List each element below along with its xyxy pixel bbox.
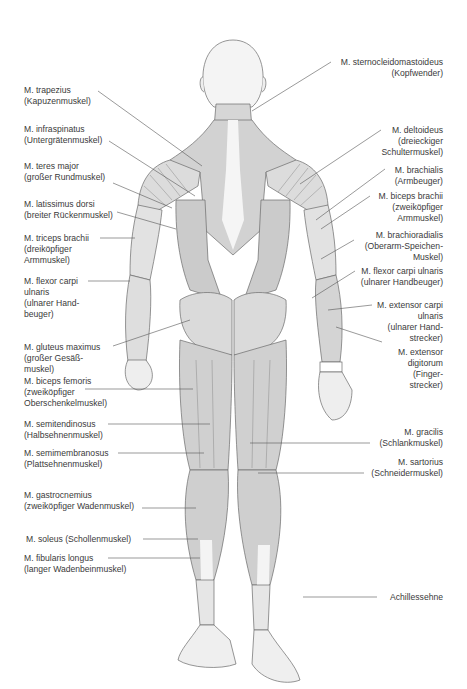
label-german: ulnaris [377,311,443,322]
label-extensor-digitorum: M. extensor digitorum (Finger- strecker) [398,347,443,391]
label-latin: M. semimembranosus [24,448,109,459]
hand-right [319,372,353,420]
label-latin: M. gastrocnemius [24,490,134,501]
label-german: Muskel) [365,252,443,263]
label-german: (ulnarer Hand- [24,298,79,309]
label-german: (Finger- [398,369,443,380]
label-latin: M. sternocleidomastoideus [341,57,443,68]
label-german: strecker) [398,380,443,391]
label-latin: M. extensor carpi [377,300,443,311]
label-german: (ulnarer Handbeuger) [361,277,443,288]
label-latissimus-dorsi: M. latissimus dorsi (breiter Rückenmuske… [24,199,113,221]
label-deltoideus: M. deltoideus (dreieckiger Schultermuske… [381,125,443,158]
lower-leg-right [252,585,270,630]
label-german: (Plattsehnenmuskel) [24,459,109,470]
label-gluteus-maximus: M. gluteus maximus (großer Gesäß- muskel… [24,342,100,375]
label-infraspinatus: M. infraspinatus (Untergrätenmuskel) [24,124,102,146]
label-german: (Kapuzenmuskel) [24,96,91,107]
lower-leg-left [196,580,214,625]
label-sartorius: M. sartorius (Schneidermuskel) [371,457,443,479]
forearm-left [126,275,151,362]
label-german: (Oberarm-Speichen- [365,241,443,252]
label-flexor-carpi-ulnaris-right: M. flexor carpi ulnaris (ulnarer Handbeu… [361,266,443,288]
label-german: Oberschenkelmuskel) [24,398,107,409]
label-german: (zweiköpfiger [24,387,107,398]
label-biceps-brachii: M. biceps brachii (zweiköpfiger Armmuske… [379,191,443,224]
label-german: (dreiköpfiger [24,244,89,255]
label-biceps-femoris: M. biceps femoris (zweiköpfiger Obersche… [24,376,107,409]
fist-left [125,360,152,390]
label-sternocleidomastoideus: M. sternocleidomastoideus (Kopfwender) [341,57,443,79]
label-latin: M. trapezius [24,85,91,96]
foot-right [252,630,300,682]
label-latin: M. sartorius [371,457,443,468]
label-latin: M. flexor carpi ulnaris [361,266,443,277]
thigh-right [234,340,287,470]
label-german: (zweiköpfiger [379,202,443,213]
label-latin: M. extensor [398,347,443,358]
foot-left [178,625,236,667]
head [203,40,263,107]
label-latin: M. deltoideus [381,125,443,136]
label-soleus: M. soleus (Schollenmuskel) [26,534,131,545]
label-latin: M. gracilis [379,427,443,438]
label-latin: M. gluteus maximus [24,342,100,353]
label-latin: M. fibularis longus [24,553,126,564]
label-german: Armmuskel) [379,213,443,224]
label-german: (großer Rundmuskel) [24,172,105,183]
label-german: (Halbsehnenmuskel) [24,430,103,441]
muscle-diagram: M. trapezius (Kapuzenmuskel) M. infraspi… [0,0,467,689]
label-latin: M. triceps brachii [24,233,89,244]
thigh-left [179,340,232,470]
label-flexor-carpi-ulnaris-left: M. flexor carpi ulnaris (ulnarer Hand- b… [24,276,79,320]
label-german: (langer Wadenbeinmuskel) [24,564,126,575]
label-german: (ulnarer Hand- [377,322,443,333]
label-fibularis-longus: M. fibularis longus (langer Wadenbeinmus… [24,553,126,575]
label-extensor-carpi-ulnaris: M. extensor carpi ulnaris (ulnarer Hand-… [377,300,443,344]
label-triceps-brachii: M. triceps brachii (dreiköpfiger Armmusk… [24,233,89,266]
label-german: (Armbeuger) [395,176,443,187]
label-brachioradialis: M. brachioradialis (Oberarm-Speichen- Mu… [365,230,443,263]
label-german: (dreieckiger [381,136,443,147]
label-german: muskel) [24,364,100,375]
label-german: beuger) [24,309,79,320]
label-semitendinosus: M. semitendinosus (Halbsehnenmuskel) [24,419,103,441]
label-brachialis: M. brachialis (Armbeuger) [395,165,443,187]
upper-arm-left [130,205,162,280]
label-latin: M. teres major [24,161,105,172]
label-latin: Achillessehne [390,592,443,603]
label-german: (großer Gesäß- [24,353,100,364]
label-german: (breiter Rückenmuskel) [24,210,113,221]
label-german: strecker) [377,333,443,344]
label-latin: M. flexor carpi [24,276,79,287]
label-german: (Schlankmuskel) [379,438,443,449]
label-trapezius: M. trapezius (Kapuzenmuskel) [24,85,91,107]
wrist-band [320,362,342,372]
label-latin: M. semitendinosus [24,419,103,430]
label-latin: M. biceps femoris [24,376,107,387]
label-german: (Kopfwender) [341,68,443,79]
forearm-right [315,275,342,362]
label-german: (zweiköpfiger Wadenmuskel) [24,501,134,512]
label-gastrocnemius: M. gastrocnemius (zweiköpfiger Wadenmusk… [24,490,134,512]
label-german: Armmuskel) [24,255,89,266]
label-achillessehne: Achillessehne [390,592,443,603]
label-latin: M. soleus (Schollenmuskel) [26,534,131,545]
label-teres-major: M. teres major (großer Rundmuskel) [24,161,105,183]
label-german: digitorum [398,358,443,369]
label-latin: M. biceps brachii [379,191,443,202]
label-german: (Schneidermuskel) [371,468,443,479]
label-gracilis: M. gracilis (Schlankmuskel) [379,427,443,449]
label-latin: M. infraspinatus [24,124,102,135]
label-latin: M. brachioradialis [365,230,443,241]
label-german: (Untergrätenmuskel) [24,135,102,146]
label-semimembranosus: M. semimembranosus (Plattsehnenmuskel) [24,448,109,470]
label-latin: M. brachialis [395,165,443,176]
upper-arm-right [304,205,336,280]
label-german: Schultermuskel) [381,147,443,158]
label-german: ulnaris [24,287,79,298]
label-latin: M. latissimus dorsi [24,199,113,210]
